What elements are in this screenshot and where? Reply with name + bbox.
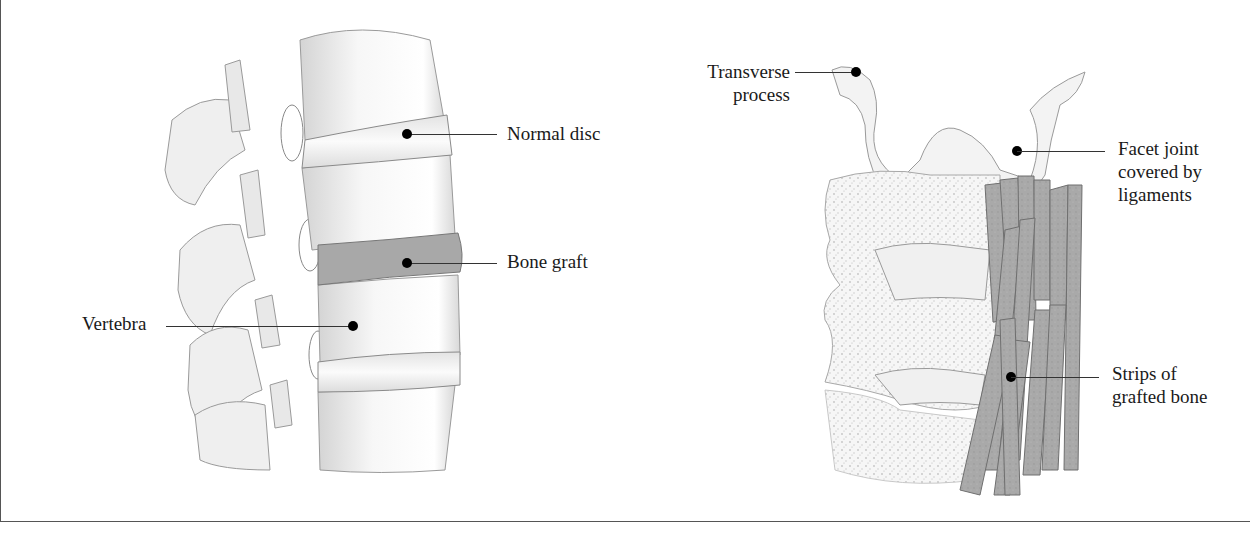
- label-transverse-process: Transverse process: [680, 60, 790, 106]
- bone-graft-marker: [402, 258, 412, 268]
- label-graft-strips-line1: Strips of: [1112, 362, 1207, 385]
- label-vertebra: Vertebra: [82, 312, 146, 335]
- label-graft-strips: Strips of grafted bone: [1112, 362, 1207, 408]
- label-facet-joint-line2: covered by: [1118, 160, 1202, 183]
- label-facet-joint-line3: ligaments: [1118, 183, 1202, 206]
- graft-strips-leader: [1011, 377, 1099, 378]
- label-bone-graft: Bone graft: [507, 250, 588, 273]
- label-graft-strips-line2: grafted bone: [1112, 385, 1207, 408]
- vertebra-marker: [348, 321, 358, 331]
- label-transverse-process-line2: process: [680, 83, 790, 106]
- label-facet-joint-line1: Facet joint: [1118, 137, 1202, 160]
- vertebra-leader: [166, 326, 354, 327]
- label-transverse-process-line1: Transverse: [680, 60, 790, 83]
- normal-disc-marker: [402, 129, 412, 139]
- transverse-process-leader: [795, 72, 857, 73]
- label-facet-joint: Facet joint covered by ligaments: [1118, 137, 1202, 206]
- normal-disc-leader: [407, 134, 497, 135]
- lateral-spine-illustration: [150, 0, 480, 490]
- transverse-process-marker: [851, 67, 861, 77]
- label-normal-disc: Normal disc: [507, 122, 600, 145]
- facet-joint-leader: [1017, 151, 1105, 152]
- bone-graft-leader: [407, 263, 497, 264]
